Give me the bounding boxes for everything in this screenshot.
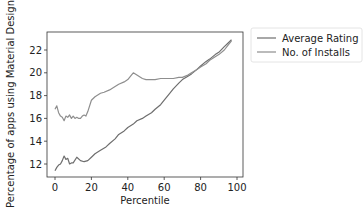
legend: Average Rating No. of Installs [251,28,362,62]
x-tick-label: 60 [158,182,171,193]
y-tick-label: 12 [29,159,42,170]
plot-area [47,32,243,177]
x-axis: 020406080100 [52,177,247,193]
y-tick-label: 22 [29,45,42,56]
series-line-average-rating [55,40,232,171]
series-line-no-of-installs [55,41,232,121]
y-axis: 121416182022 [29,45,47,170]
y-tick-label: 14 [29,136,42,147]
y-tick-label: 16 [29,113,42,124]
x-axis-label: Percentile [120,195,169,206]
x-tick-label: 40 [121,182,134,193]
series-layer [55,40,232,171]
x-tick-label: 0 [52,182,58,193]
line-chart: 020406080100 121416182022 Percentile Per… [0,0,364,211]
legend-label-average-rating: Average Rating [282,33,358,44]
y-tick-label: 18 [29,90,42,101]
legend-label-no-of-installs: No. of Installs [282,47,350,58]
axes-frame [47,32,243,177]
y-axis-label: Percentage of apps using Material Design [5,0,16,208]
x-tick-label: 100 [227,182,246,193]
y-tick-label: 20 [29,67,42,78]
x-tick-label: 20 [85,182,98,193]
x-tick-label: 80 [194,182,207,193]
